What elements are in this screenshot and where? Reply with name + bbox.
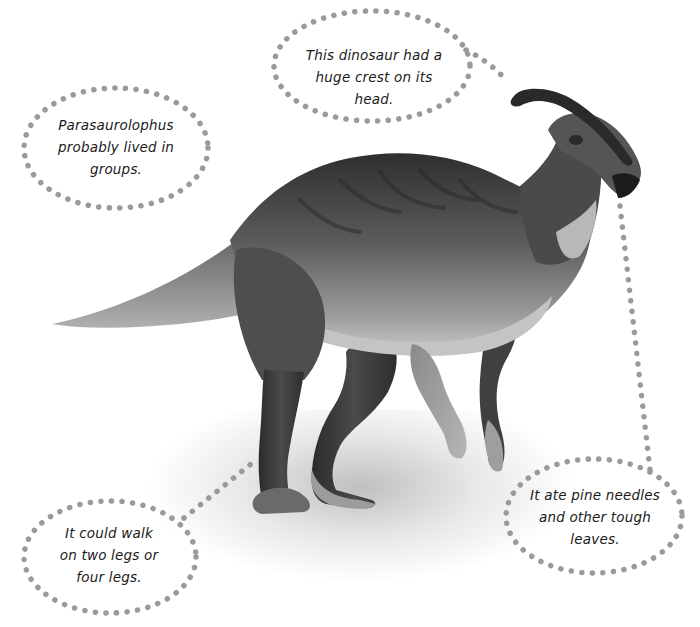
callout-groups: Parasaurolophus probably lived in groups… — [36, 114, 196, 180]
arm-near — [410, 344, 466, 459]
callout-groups-line-1: Parasaurolophus — [36, 114, 196, 136]
callout-crest-line-1: This dinosaur had a — [290, 44, 458, 66]
callout-walk-line-1: It could walk — [34, 522, 184, 544]
callout-crest-line-3: head. — [290, 88, 458, 110]
callout-diet-line-2: and other tough — [510, 506, 680, 528]
callout-walk-line-2: on two legs or — [34, 544, 184, 566]
illustration-page: Parasaurolophus probably lived in groups… — [0, 0, 700, 627]
callout-walk-line-3: four legs. — [34, 566, 184, 588]
callout-diet-line-1: It ate pine needles — [510, 484, 680, 506]
callout-diet-line-3: leaves. — [510, 528, 680, 550]
callout-diet: It ate pine needles and other tough leav… — [510, 484, 680, 550]
callout-groups-line-3: groups. — [36, 158, 196, 180]
connector-diet — [620, 206, 650, 470]
hind-leg-near — [259, 370, 304, 500]
callout-crest: This dinosaur had a huge crest on its he… — [290, 44, 458, 110]
callout-crest-line-2: huge crest on its — [290, 66, 458, 88]
connector-walk — [184, 460, 256, 518]
callout-groups-line-2: probably lived in — [36, 136, 196, 158]
callout-walk: It could walk on two legs or four legs. — [34, 522, 184, 588]
